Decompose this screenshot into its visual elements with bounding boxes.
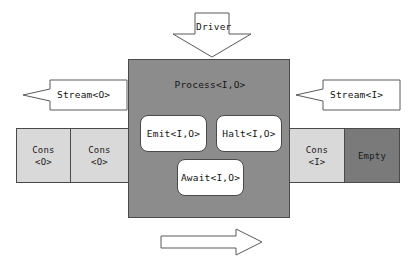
node-halt-label: Halt<I,O> (222, 128, 275, 139)
driver-arrow-label: Driver (196, 21, 232, 32)
driver-arrow (172, 12, 252, 58)
advance-arrow (160, 228, 263, 256)
cell-label-bottom: <O> (35, 156, 52, 168)
cell-label-bottom: <O> (91, 156, 108, 168)
output-stream-cell-0: Cons <O> (16, 128, 71, 183)
cell-label-top: Empty (358, 150, 386, 162)
cell-label-top: Cons (32, 144, 54, 156)
output-stream-cell-1: Cons <O> (70, 128, 129, 183)
cell-label-top: Cons (88, 144, 110, 156)
cell-label-top: Cons (306, 144, 328, 156)
input-stream-cell-empty: Empty (344, 128, 400, 183)
process-box: Process<I,O> Emit<I,O> Halt<I,O> Await<I… (128, 59, 290, 218)
stream-in-arrow-label: Stream<I> (330, 89, 383, 100)
node-await[interactable]: Await<I,O> (177, 159, 244, 196)
diagram-canvas: Cons <O> Cons <O> Cons <I> Empty Process… (0, 0, 417, 274)
cell-label-bottom: <I> (309, 156, 326, 168)
node-emit[interactable]: Emit<I,O> (140, 115, 207, 152)
stream-out-arrow-label: Stream<O> (57, 89, 110, 100)
node-halt[interactable]: Halt<I,O> (216, 115, 282, 152)
node-await-label: Await<I,O> (181, 172, 240, 183)
node-emit-label: Emit<I,O> (147, 128, 200, 139)
input-stream-cell-0: Cons <I> (289, 128, 345, 183)
process-title: Process<I,O> (129, 79, 291, 90)
